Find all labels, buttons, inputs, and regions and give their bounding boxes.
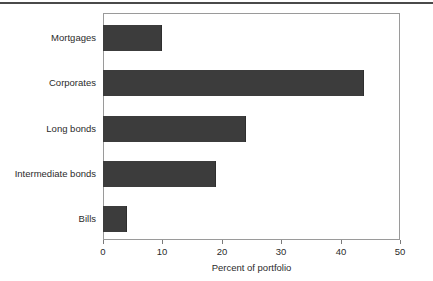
- chart-figure: Percent of portfolio MortgagesCorporates…: [0, 0, 433, 281]
- bar-mortgages: [103, 25, 400, 51]
- bar-rect: [103, 25, 162, 51]
- category-label-corporates: Corporates: [0, 77, 96, 88]
- category-label-long-bonds: Long bonds: [0, 123, 96, 134]
- category-label-bills: Bills: [0, 213, 96, 224]
- x-tick-label-40: 40: [321, 246, 361, 258]
- x-tick-mark-40: [341, 240, 342, 244]
- x-tick-label-50: 50: [380, 246, 420, 258]
- bar-bills: [103, 206, 400, 232]
- bar-rect: [103, 206, 127, 232]
- x-axis-title: Percent of portfolio: [103, 262, 400, 273]
- category-label-mortgages: Mortgages: [0, 32, 96, 43]
- bar-corporates: [103, 70, 400, 96]
- plot-area: [103, 13, 400, 240]
- bar-rect: [103, 161, 216, 187]
- x-tick-label-20: 20: [202, 246, 242, 258]
- bar-rect: [103, 116, 246, 142]
- x-tick-mark-30: [281, 240, 282, 244]
- x-tick-mark-10: [162, 240, 163, 244]
- x-tick-mark-50: [400, 240, 401, 244]
- bar-long-bonds: [103, 116, 400, 142]
- x-tick-mark-20: [222, 240, 223, 244]
- x-tick-label-30: 30: [261, 246, 301, 258]
- bar-rect: [103, 70, 364, 96]
- x-tick-mark-0: [103, 240, 104, 244]
- x-tick-label-10: 10: [142, 246, 182, 258]
- category-label-intermediate-bonds: Intermediate bonds: [0, 168, 96, 179]
- bar-intermediate-bonds: [103, 161, 400, 187]
- top-divider-rule: [0, 2, 433, 4]
- x-tick-label-0: 0: [83, 246, 123, 258]
